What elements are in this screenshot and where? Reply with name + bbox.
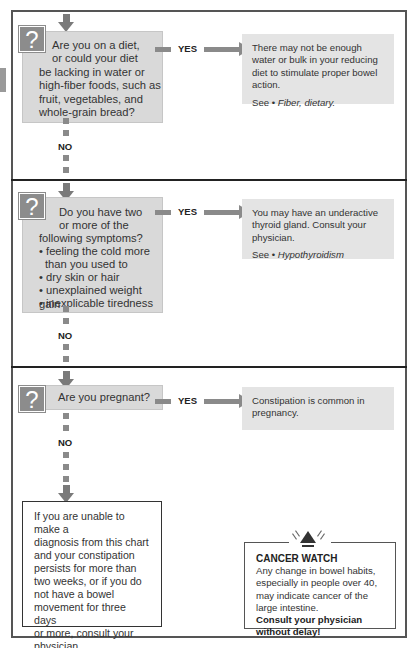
no-path-dash <box>63 118 69 124</box>
question-1-line-c: be lacking in water or <box>39 66 164 80</box>
question-1-line-d: high-fiber foods, such as <box>39 79 164 93</box>
yes-label-1: YES <box>178 43 197 54</box>
no-label-3: NO <box>58 437 72 448</box>
no-path-dash <box>63 425 69 431</box>
connector-shaft <box>204 399 239 404</box>
symptom-item-cont: than you used to <box>45 258 164 272</box>
cancer-watch-warning-1: Consult your physician <box>256 614 384 626</box>
connector-shaft <box>204 47 239 52</box>
answer-box-2: You may have an underactive thyroid glan… <box>242 199 394 259</box>
connector-stub <box>155 210 171 215</box>
warning-triangle-icon <box>300 531 316 543</box>
no-path-dash <box>63 413 69 419</box>
no-path-dash <box>63 167 69 173</box>
final-advice-box: If you are unable to make a diagnosis fr… <box>22 501 162 627</box>
answer-box-3: Constipation is common in pregnancy. <box>242 387 394 430</box>
question-1-line-f: whole-grain bread? <box>39 106 164 120</box>
yes-connector-3: YES <box>155 395 250 409</box>
question-1-line-b: or could your diet <box>52 52 164 66</box>
question-1-line-e: fruit, vegetables, and <box>39 93 164 107</box>
final-line: and your constipation <box>34 549 150 562</box>
section-divider <box>11 179 407 181</box>
final-line: If you are unable to make a <box>34 510 150 536</box>
yes-connector-1: YES <box>155 43 250 57</box>
question-2-line-b: or more of the <box>59 219 164 233</box>
section-divider <box>11 366 407 368</box>
question-2-line-a: Do you have two <box>59 206 164 220</box>
question-mark-icon: ? <box>19 193 45 219</box>
final-line: or more, consult your <box>34 627 150 640</box>
yes-label-2: YES <box>178 206 197 217</box>
question-1-line-a: Are you on a diet, <box>52 39 164 53</box>
no-path-dash <box>63 452 69 458</box>
no-path-dash <box>63 344 69 350</box>
yes-connector-2: YES <box>155 206 250 220</box>
no-path-dash <box>63 130 69 136</box>
see-reference-link[interactable]: Hypothyroidism <box>278 249 344 260</box>
final-line: physician. <box>34 640 150 648</box>
symptom-item: • dry skin or hair <box>39 271 164 285</box>
see-prefix: See • <box>252 97 278 108</box>
answer-1-text: There may not be enough water or bulk in… <box>252 42 384 92</box>
question-2-line-c: following symptoms? <box>39 232 164 246</box>
no-path-dash <box>63 306 69 312</box>
connector-shaft <box>204 210 239 215</box>
see-reference-link[interactable]: Fiber, dietary. <box>278 97 335 108</box>
no-label-2: NO <box>58 330 72 341</box>
cancer-watch-warning-2: without delay! <box>256 626 384 638</box>
final-line: persists for more than <box>34 562 150 575</box>
symptom-item: • feeling the cold more <box>39 245 164 259</box>
no-path-dash <box>63 464 69 470</box>
warning-base-line <box>302 545 314 547</box>
yes-label-3: YES <box>178 395 197 406</box>
connector-stub <box>155 399 171 404</box>
see-prefix: See • <box>252 249 278 260</box>
answer-3-text: Constipation is common in pregnancy. <box>252 395 384 420</box>
cancer-watch-box: CANCER WATCH Any change in bowel habits,… <box>244 542 396 629</box>
no-path-dash <box>63 476 69 482</box>
no-label-1: NO <box>58 141 72 152</box>
no-path-dash <box>63 356 69 362</box>
answer-2-see: See • Hypothyroidism <box>252 249 384 261</box>
answer-1-see: See • Fiber, dietary. <box>252 97 384 109</box>
answer-box-1: There may not be enough water or bulk in… <box>242 34 394 104</box>
final-line: not have a bowel <box>34 588 150 601</box>
final-line: movement for three days <box>34 601 150 627</box>
no-path-dash <box>63 155 69 161</box>
question-3-text: Are you pregnant? <box>58 391 164 405</box>
question-mark-icon: ? <box>19 26 45 52</box>
cancer-watch-text: Any change in bowel habits, especially i… <box>256 565 384 614</box>
no-path-dash <box>63 318 69 324</box>
symptom-item: • inexplicable tiredness <box>39 297 164 311</box>
final-line: diagnosis from this chart <box>34 536 150 549</box>
question-mark-icon: ? <box>19 386 45 412</box>
final-line: two weeks, or if you do <box>34 575 150 588</box>
connector-stub <box>155 47 171 52</box>
cancer-watch-title: CANCER WATCH <box>256 553 384 565</box>
answer-2-text: You may have an underactive thyroid glan… <box>252 207 384 244</box>
chapter-tab <box>0 68 6 92</box>
